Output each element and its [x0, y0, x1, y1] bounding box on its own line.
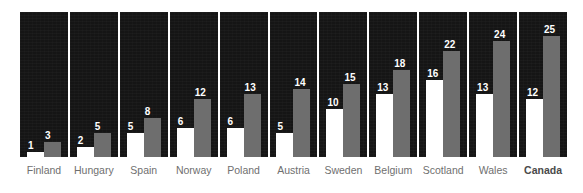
bar-series-2: 24	[493, 41, 510, 157]
country-panel: 1318	[369, 12, 417, 157]
bar-series-1: 10	[326, 109, 343, 157]
x-axis-label: Austria	[270, 163, 318, 183]
bar-value-label: 2	[77, 135, 84, 146]
bar-series-1: 13	[376, 94, 393, 157]
bar-series-2: 14	[293, 89, 310, 157]
bar-value-label: 5	[127, 121, 134, 132]
x-axis-label: Belgium	[369, 163, 417, 183]
country-panel: 1324	[469, 12, 517, 157]
bar-value-label: 1	[27, 140, 34, 151]
bar-value-label: 15	[343, 72, 355, 83]
bar-group: 612	[170, 12, 218, 157]
bar-series-2: 25	[543, 36, 560, 157]
bar-series-2: 12	[194, 99, 211, 157]
bar-series-1: 5	[127, 133, 144, 157]
bar-value-label: 14	[293, 77, 305, 88]
plot-area: 13255861261351410151318162213241225	[20, 12, 567, 157]
bar-value-label: 16	[426, 68, 438, 79]
bar-group: 25	[70, 12, 118, 157]
bar-group: 514	[270, 12, 318, 157]
country-panel: 613	[220, 12, 268, 157]
bar-value-label: 6	[227, 116, 234, 127]
bar-series-1: 2	[77, 147, 94, 157]
bar-value-label: 6	[177, 116, 184, 127]
bar-series-1: 1	[27, 152, 44, 157]
x-axis-label: Poland	[220, 163, 268, 183]
bar-value-label: 5	[94, 121, 101, 132]
bar-group: 58	[120, 12, 168, 157]
bar-value-label: 5	[276, 121, 283, 132]
bar-group: 1622	[419, 12, 467, 157]
bar-value-label: 13	[244, 82, 256, 93]
country-panel: 514	[270, 12, 318, 157]
bar-series-1: 6	[227, 128, 244, 157]
x-axis-label: Hungary	[70, 163, 118, 183]
bar-value-label: 12	[194, 87, 206, 98]
bar-value-label: 24	[493, 29, 505, 40]
bar-series-2: 5	[94, 133, 111, 157]
bar-group: 1318	[369, 12, 417, 157]
bar-value-label: 3	[44, 130, 51, 141]
x-axis-label: Finland	[20, 163, 68, 183]
country-panel: 1015	[319, 12, 367, 157]
x-axis-label-row: FinlandHungarySpainNorwayPolandAustriaSw…	[20, 163, 567, 183]
bar-value-label: 8	[144, 106, 151, 117]
bar-value-label: 18	[393, 58, 405, 69]
bar-series-2: 15	[343, 84, 360, 157]
bar-value-label: 12	[526, 87, 538, 98]
bar-series-1: 16	[426, 80, 443, 157]
bar-group: 1015	[319, 12, 367, 157]
bar-value-label: 25	[543, 24, 555, 35]
bar-series-1: 13	[476, 94, 493, 157]
bar-value-label: 22	[443, 39, 455, 50]
bar-group: 13	[20, 12, 68, 157]
bar-chart: 13255861261351410151318162213241225 Finl…	[0, 0, 583, 193]
country-panel: 1225	[519, 12, 567, 157]
bar-series-2: 22	[443, 51, 460, 157]
x-axis-label: Canada	[519, 163, 567, 183]
bar-value-label: 13	[376, 82, 388, 93]
country-panel: 13	[20, 12, 68, 157]
x-axis-label: Scotland	[419, 163, 467, 183]
bar-value-label: 13	[476, 82, 488, 93]
bar-series-2: 3	[44, 142, 61, 157]
country-panel: 1622	[419, 12, 467, 157]
bar-series-2: 18	[393, 70, 410, 157]
x-axis-label: Spain	[120, 163, 168, 183]
bar-group: 1324	[469, 12, 517, 157]
bar-value-label: 10	[326, 97, 338, 108]
x-axis-label: Sweden	[319, 163, 367, 183]
bar-group: 1225	[519, 12, 567, 157]
bar-series-1: 5	[276, 133, 293, 157]
x-axis-label: Norway	[170, 163, 218, 183]
country-panel: 612	[170, 12, 218, 157]
bar-series-1: 6	[177, 128, 194, 157]
country-panel: 58	[120, 12, 168, 157]
country-panel: 25	[70, 12, 118, 157]
bar-series-2: 8	[144, 118, 161, 157]
bar-series-1: 12	[526, 99, 543, 157]
x-axis-label: Wales	[469, 163, 517, 183]
bar-group: 613	[220, 12, 268, 157]
bar-series-2: 13	[244, 94, 261, 157]
